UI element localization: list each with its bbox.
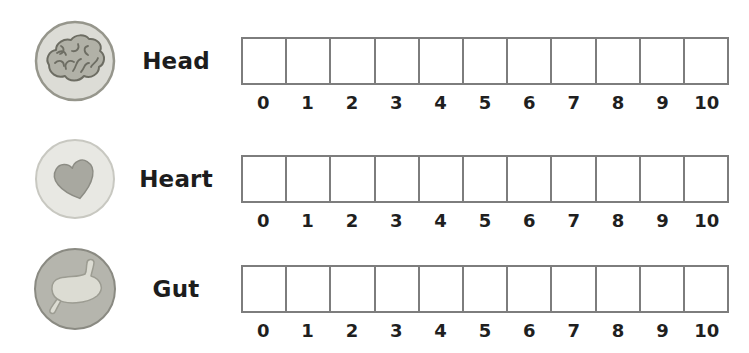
scale-cell-4[interactable] [420,267,464,311]
tick-label-6: 6 [507,210,551,231]
row-head: Head 012345678910 [0,17,749,125]
scale-cell-4[interactable] [420,157,464,201]
tick-label-5: 5 [463,210,507,231]
tick-label-2: 2 [330,210,374,231]
scale-cell-6[interactable] [508,157,552,201]
scale-cell-6[interactable] [508,267,552,311]
scale-cell-7[interactable] [552,39,596,83]
scale-cell-10[interactable] [685,267,727,311]
scale-cell-10[interactable] [685,157,727,201]
row-gut: Gut 012345678910 [0,245,749,353]
scale-boxes [241,265,729,313]
scale-cell-1[interactable] [287,157,331,201]
scale-cell-7[interactable] [552,157,596,201]
scale-cell-9[interactable] [641,267,685,311]
scale-cell-7[interactable] [552,267,596,311]
tick-label-5: 5 [463,320,507,341]
scale-cell-3[interactable] [376,39,420,83]
scale-cell-3[interactable] [376,157,420,201]
tick-label-10: 10 [685,320,729,341]
rating-scale-gut: 012345678910 [241,265,729,341]
scale-cell-2[interactable] [331,157,375,201]
tick-label-4: 4 [418,210,462,231]
tick-label-8: 8 [596,92,640,113]
scale-ticks: 012345678910 [241,210,729,231]
tick-label-2: 2 [330,320,374,341]
tick-label-5: 5 [463,92,507,113]
rating-scale-heart: 012345678910 [241,155,729,231]
scale-cell-9[interactable] [641,157,685,201]
tick-label-3: 3 [374,320,418,341]
tick-label-10: 10 [685,92,729,113]
tick-label-9: 9 [640,92,684,113]
tick-label-1: 1 [285,320,329,341]
tick-label-0: 0 [241,210,285,231]
tick-label-4: 4 [418,92,462,113]
scale-cell-1[interactable] [287,267,331,311]
tick-label-0: 0 [241,92,285,113]
tick-label-8: 8 [596,320,640,341]
scale-cell-2[interactable] [331,267,375,311]
tick-label-4: 4 [418,320,462,341]
scale-cell-2[interactable] [331,39,375,83]
head-heart-gut-worksheet: Head 012345678910 Heart 012345678910 [0,0,749,353]
heart-icon [33,137,117,221]
row-heart: Heart 012345678910 [0,135,749,243]
tick-label-1: 1 [285,210,329,231]
scale-cell-4[interactable] [420,39,464,83]
tick-label-8: 8 [596,210,640,231]
row-label-head: Head [118,37,234,85]
scale-cell-8[interactable] [597,39,641,83]
tick-label-7: 7 [552,210,596,231]
scale-cell-9[interactable] [641,39,685,83]
tick-label-0: 0 [241,320,285,341]
tick-label-6: 6 [507,92,551,113]
tick-label-7: 7 [552,320,596,341]
tick-label-9: 9 [640,210,684,231]
scale-cell-1[interactable] [287,39,331,83]
scale-cell-0[interactable] [243,39,287,83]
row-label-gut: Gut [118,265,234,313]
scale-ticks: 012345678910 [241,320,729,341]
tick-label-10: 10 [685,210,729,231]
row-label-heart: Heart [118,155,234,203]
scale-cell-5[interactable] [464,157,508,201]
tick-label-1: 1 [285,92,329,113]
scale-cell-5[interactable] [464,267,508,311]
tick-label-2: 2 [330,92,374,113]
scale-cell-6[interactable] [508,39,552,83]
gut-icon [33,247,117,331]
brain-icon [33,19,117,103]
scale-boxes [241,37,729,85]
scale-cell-3[interactable] [376,267,420,311]
scale-cell-8[interactable] [597,157,641,201]
scale-cell-5[interactable] [464,39,508,83]
scale-cell-0[interactable] [243,157,287,201]
tick-label-6: 6 [507,320,551,341]
rating-scale-head: 012345678910 [241,37,729,113]
scale-cell-0[interactable] [243,267,287,311]
tick-label-3: 3 [374,210,418,231]
scale-boxes [241,155,729,203]
tick-label-3: 3 [374,92,418,113]
scale-cell-8[interactable] [597,267,641,311]
tick-label-9: 9 [640,320,684,341]
tick-label-7: 7 [552,92,596,113]
scale-ticks: 012345678910 [241,92,729,113]
scale-cell-10[interactable] [685,39,727,83]
